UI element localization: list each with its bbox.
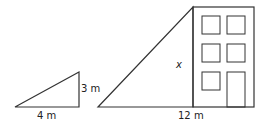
door <box>227 72 245 107</box>
large-base-label: 12 m <box>178 110 204 121</box>
small-base-label: 4 m <box>37 110 56 121</box>
large-height-label: x <box>176 59 182 70</box>
window <box>227 16 245 34</box>
window <box>202 72 220 90</box>
large-triangle <box>98 7 193 107</box>
window <box>202 16 220 34</box>
similar-triangles-diagram <box>0 0 264 125</box>
small-height-label: 3 m <box>81 83 100 94</box>
window <box>227 44 245 62</box>
small-triangle <box>15 72 79 107</box>
window <box>202 44 220 62</box>
